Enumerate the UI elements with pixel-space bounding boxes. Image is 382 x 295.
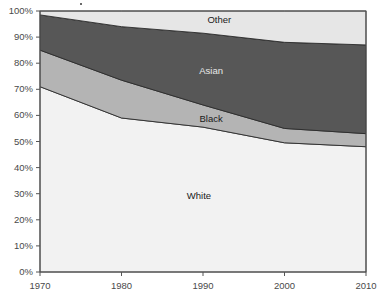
y-tick-label: 0%: [0, 267, 33, 277]
plot-area: [0, 0, 382, 295]
y-tick-label: 50%: [0, 137, 33, 147]
y-tick-label: 70%: [0, 85, 33, 95]
y-tick-label: 30%: [0, 189, 33, 199]
y-tick-label: 100%: [0, 6, 33, 16]
y-tick-label: 40%: [0, 163, 33, 173]
y-tick-label: 90%: [0, 32, 33, 42]
x-tick-label: 1980: [111, 281, 132, 291]
y-tick-label: 60%: [0, 111, 33, 121]
series-label-white: White: [187, 192, 211, 202]
y-tick-label: 80%: [0, 58, 33, 68]
y-tick-label: 10%: [0, 241, 33, 251]
area-series-group: [40, 11, 366, 272]
x-tick-label: 2000: [274, 281, 295, 291]
scan-artifact-speck: [80, 3, 82, 5]
stacked-area-chart: 0%10%20%30%40%50%60%70%80%90%100% 197019…: [0, 0, 382, 295]
series-label-other: Other: [207, 15, 231, 25]
x-tick-label: 1970: [29, 281, 50, 291]
series-label-asian: Asian: [199, 66, 223, 76]
series-label-black: Black: [200, 115, 223, 125]
y-tick-label: 20%: [0, 215, 33, 225]
x-tick-label: 1990: [192, 281, 213, 291]
x-tick-label: 2010: [355, 281, 376, 291]
